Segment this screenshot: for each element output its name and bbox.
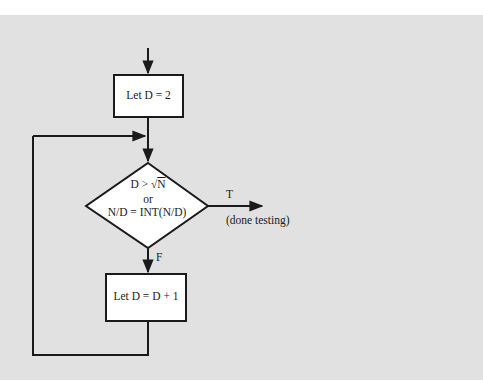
init-box-text: Let D = 2: [114, 89, 183, 101]
increment-box-text: Let D = D + 1: [106, 290, 186, 302]
flowchart-canvas: [0, 0, 483, 390]
decision-line3: N/D = INT(N/D): [86, 206, 208, 218]
loop-path: [33, 136, 148, 355]
decision-line2: or: [96, 193, 200, 205]
decision-line1-prefix: D >: [130, 178, 151, 190]
true-note: (done testing): [226, 214, 290, 226]
decision-line1: D > √N: [96, 178, 200, 190]
true-label: T: [226, 188, 233, 200]
false-label: F: [156, 251, 162, 263]
decision-line1-sqrt-arg: N: [157, 178, 165, 190]
